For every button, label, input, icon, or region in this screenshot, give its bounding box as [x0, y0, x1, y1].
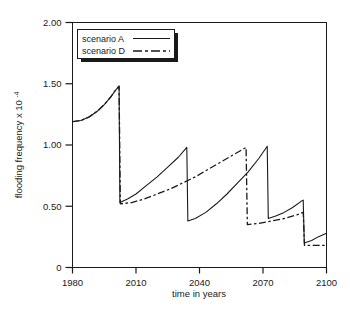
x-tick-label: 1980	[62, 277, 83, 288]
x-axis-title: time in years	[172, 288, 226, 299]
y-axis-ticks: 00.501.001.502.00	[43, 17, 73, 273]
y-tick-label: 1.00	[43, 139, 62, 150]
y-axis-title-text: flooding frequency x 10	[13, 97, 24, 198]
svg-text:flooding frequency x 10 -4: flooding frequency x 10 -4	[13, 91, 25, 198]
data-series-group	[73, 86, 327, 245]
y-tick-label: 0.50	[43, 201, 62, 212]
series-line-scenario-a	[73, 86, 327, 243]
y-tick-label: 2.00	[43, 17, 62, 28]
legend-label-scenario-d: scenario D	[82, 46, 126, 56]
y-axis-title-exponent: -4	[13, 91, 20, 97]
x-tick-label: 2040	[189, 277, 210, 288]
x-tick-label: 2070	[252, 277, 273, 288]
chart-legend: scenario A scenario D	[78, 30, 179, 63]
x-tick-label: 2100	[316, 277, 337, 288]
legend-label-scenario-a: scenario A	[82, 34, 124, 44]
y-tick-label: 0	[56, 262, 61, 273]
x-axis-ticks: 19802010204020702100	[62, 268, 337, 288]
flooding-frequency-line-chart: 00.501.001.502.00 19802010204020702100 s…	[0, 0, 350, 312]
series-line-scenario-d	[73, 86, 327, 245]
x-tick-label: 2010	[125, 277, 146, 288]
y-axis-title: flooding frequency x 10 -4	[13, 91, 25, 198]
y-tick-label: 1.50	[43, 78, 62, 89]
chart-figure: 00.501.001.502.00 19802010204020702100 s…	[0, 0, 350, 312]
